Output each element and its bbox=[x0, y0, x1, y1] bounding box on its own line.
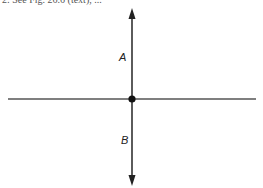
arrow-up-icon bbox=[129, 8, 136, 19]
label-b: B bbox=[121, 134, 128, 146]
center-point bbox=[128, 95, 135, 102]
arrow-down-icon bbox=[129, 175, 136, 186]
diagram-canvas bbox=[0, 0, 263, 188]
label-a: A bbox=[119, 51, 126, 63]
